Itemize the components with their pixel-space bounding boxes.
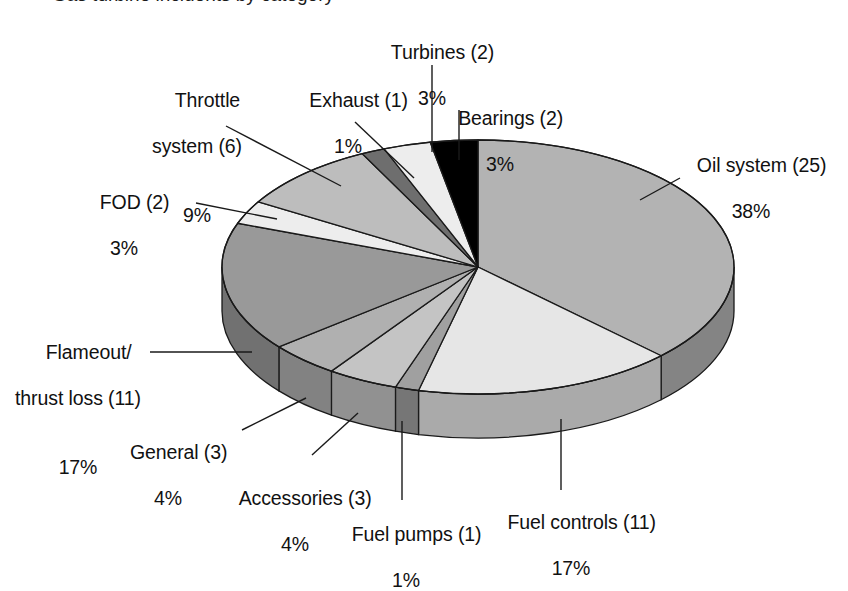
label-oil-system: Oil system (25) 38% [654, 131, 848, 269]
label-fuelpumps-name: Fuel pumps (1) [352, 523, 482, 545]
label-turbines-name: Turbines (2) [391, 41, 494, 63]
label-oil-pct: 38% [654, 200, 848, 223]
leader-line-accessories [312, 413, 358, 455]
label-exhaust-name: Exhaust (1) [309, 89, 408, 111]
label-oil-name: Oil system (25) [697, 154, 827, 176]
label-fod: FOD (2) 3% [58, 168, 190, 306]
label-bearings-pct: 3% [400, 153, 600, 176]
leader-line-general [242, 398, 306, 430]
label-flameout-name-l1: Flameout/ [46, 341, 132, 363]
label-fuel-controls: Fuel controls (11) 17% [478, 488, 664, 591]
label-fod-name: FOD (2) [100, 191, 170, 213]
label-throttle-name-l1: Throttle [175, 89, 240, 111]
label-bearings-name: Bearings (2) [458, 107, 563, 129]
label-bearings: Bearings (2) 3% [400, 84, 600, 222]
label-flameout-name-l2: thrust loss (11) [6, 387, 150, 410]
label-general-name: General (3) [130, 441, 228, 463]
label-fod-pct: 3% [58, 237, 190, 260]
label-fuelcontrols-name: Fuel controls (11) [507, 511, 655, 533]
label-fuelcontrols-pct: 17% [478, 557, 664, 580]
label-fuelpumps-pct: 1% [322, 569, 490, 591]
pie-slice-side-fuel-pumps [395, 387, 418, 434]
label-fuel-pumps: Fuel pumps (1) 1% [322, 500, 490, 591]
